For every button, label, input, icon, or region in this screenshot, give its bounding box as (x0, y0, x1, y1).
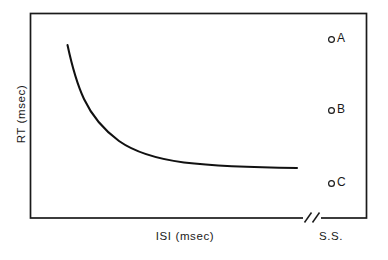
data-point-marker-c (329, 181, 335, 187)
plot-canvas (0, 0, 388, 260)
plot-frame (31, 14, 367, 219)
rt-isi-curve (68, 45, 298, 168)
data-point-marker-b (329, 108, 335, 114)
data-point-label-b: B (337, 102, 345, 116)
x-axis-ss-tick-label: S.S. (308, 230, 354, 242)
data-point-label-c: C (337, 175, 346, 189)
data-point-marker-a (329, 37, 335, 43)
figure-container: A B C ISI (msec) RT (msec) S.S. (0, 0, 388, 260)
data-point-label-a: A (337, 31, 345, 45)
y-axis-title: RT (msec) (15, 55, 27, 173)
